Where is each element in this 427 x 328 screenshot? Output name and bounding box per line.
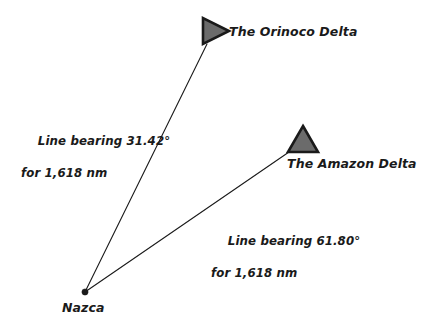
nazca-origin-dot — [82, 289, 88, 295]
bearing-orinoco-line-1: Line bearing 31.42° — [38, 134, 170, 148]
amazon-delta-triangle-icon — [288, 126, 318, 152]
amazon-delta-label: The Amazon Delta — [287, 156, 417, 173]
bearing-annotation-orinoco: Line bearing 31.42° for 1,618 nm — [21, 118, 170, 214]
orinoco-delta-triangle-icon — [203, 18, 229, 44]
orinoco-delta-label: The Orinoco Delta — [229, 24, 357, 41]
nazca-label: Nazca — [62, 300, 105, 317]
bearing-orinoco-line-2: for 1,618 nm — [21, 166, 170, 182]
bearing-amazon-line-2: for 1,618 nm — [211, 266, 360, 282]
bearing-annotation-amazon: Line bearing 61.80° for 1,618 nm — [211, 218, 360, 314]
bearing-amazon-line-1: Line bearing 61.80° — [228, 234, 360, 248]
bearing-diagram: The Orinoco Delta The Amazon Delta Nazca… — [0, 0, 427, 328]
